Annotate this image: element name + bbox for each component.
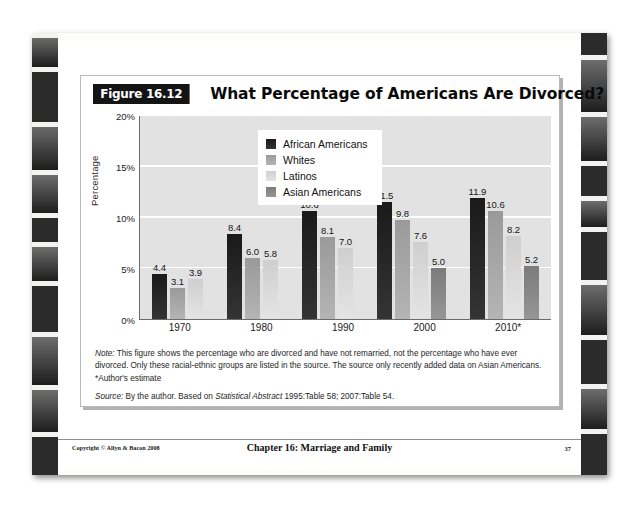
bar: 7.0: [338, 248, 353, 319]
legend-swatch: [266, 187, 276, 197]
x-tick-label: 2000: [414, 322, 436, 333]
bar: 11.5: [377, 202, 392, 319]
bar: 4.4: [152, 274, 167, 319]
legend-swatch: [266, 139, 276, 149]
chapter-title: Chapter 16: Marriage and Family: [58, 442, 581, 453]
scanned-page: Figure 16.12 What Percentage of American…: [32, 33, 607, 475]
y-axis-ticks: 0%5%10%15%20%: [99, 110, 139, 342]
y-tick-label: 5%: [121, 264, 135, 275]
bar-value-label: 6.0: [246, 246, 259, 257]
bar-value-label: 5.2: [525, 254, 538, 265]
bar-chart: Percentage 0%5%10%15%20% 4.43.13.98.46.0…: [81, 110, 559, 342]
bar: 3.9: [188, 279, 203, 319]
bar: 9.8: [395, 220, 410, 319]
x-tick-label: 1980: [250, 322, 272, 333]
legend-item: Asian Americans: [266, 185, 368, 198]
source-text: Source: By the author. Based on Statisti…: [95, 392, 547, 401]
bar-group: 11.59.87.65.0: [377, 116, 446, 319]
bar: 3.1: [170, 288, 185, 319]
bar-value-label: 3.9: [189, 267, 202, 278]
legend-item: Latinos: [266, 169, 368, 182]
bar: 10.6: [302, 211, 317, 319]
bar-value-label: 11.9: [469, 186, 487, 197]
note-prefix: Note:: [95, 349, 115, 358]
legend-item: Whites: [266, 153, 368, 166]
chart-legend: African AmericansWhitesLatinosAsian Amer…: [258, 130, 382, 205]
legend-swatch: [266, 171, 276, 181]
x-tick-label: 1990: [332, 322, 354, 333]
bar: 10.6: [488, 211, 503, 319]
bar: 8.1: [320, 237, 335, 319]
y-tick-label: 20%: [116, 111, 135, 122]
legend-swatch: [266, 155, 276, 165]
bar: 11.9: [470, 198, 485, 319]
legend-label: Latinos: [283, 170, 317, 182]
note-body: This figure shows the percentage who are…: [95, 349, 541, 383]
y-tick-label: 0%: [121, 315, 135, 326]
source-italic-title: Statistical Abstract: [215, 392, 282, 401]
legend-label: African Americans: [283, 138, 368, 150]
source-part2: 1995:Table 58; 2007:Table 54.: [282, 392, 394, 401]
bar-value-label: 8.4: [228, 222, 241, 233]
bar-value-label: 9.8: [396, 208, 409, 219]
x-tick-label: 2010*: [495, 322, 521, 333]
bar-value-label: 3.1: [171, 276, 184, 287]
y-tick-label: 10%: [116, 213, 135, 224]
figure-card: Figure 16.12 What Percentage of American…: [80, 75, 560, 407]
figure-title-row: Figure 16.12 What Percentage of American…: [81, 76, 559, 112]
bar: 8.2: [506, 236, 521, 319]
bar-value-label: 10.6: [486, 199, 505, 210]
source-part1: By the author. Based on: [123, 392, 215, 401]
figure-number-badge: Figure 16.12: [93, 84, 190, 104]
bar-value-label: 7.6: [414, 230, 427, 241]
legend-label: Asian Americans: [283, 186, 361, 198]
legend-item: African Americans: [266, 137, 368, 150]
bar-value-label: 8.1: [321, 225, 334, 236]
plot-area: 4.43.13.98.46.05.810.68.17.011.59.87.65.…: [139, 116, 551, 320]
bar-group: 11.910.68.25.2: [470, 116, 539, 319]
bar: 5.2: [524, 266, 539, 319]
figure-notes: Note: This figure shows the percentage w…: [95, 348, 547, 401]
source-prefix: Source:: [95, 392, 123, 401]
x-tick-label: 1970: [169, 322, 191, 333]
bar: 6.0: [245, 258, 260, 319]
bar-value-label: 8.2: [507, 224, 520, 235]
bar: 5.0: [431, 268, 446, 319]
legend-label: Whites: [283, 154, 315, 166]
bar: 8.4: [227, 234, 242, 319]
note-text: Note: This figure shows the percentage w…: [95, 348, 547, 385]
bar-group: 4.43.13.9: [152, 116, 203, 319]
y-tick-label: 15%: [116, 162, 135, 173]
bar-value-label: 7.0: [339, 236, 352, 247]
slide-footer: Copyright © Allyn & Bacon 2008 Chapter 1…: [58, 439, 581, 459]
bar: 7.6: [413, 242, 428, 319]
x-axis-ticks: 19701980199020002010*: [139, 322, 551, 340]
bar: 5.8: [263, 260, 278, 319]
bar-value-label: 5.8: [264, 248, 277, 259]
presentation-slide: Figure 16.12 What Percentage of American…: [58, 39, 581, 469]
bar-value-label: 5.0: [432, 256, 445, 267]
bar-value-label: 4.4: [153, 262, 166, 273]
figure-title: What Percentage of Americans Are Divorce…: [210, 85, 604, 103]
filmstrip-left: [32, 33, 58, 475]
page-number: 37: [565, 445, 572, 452]
